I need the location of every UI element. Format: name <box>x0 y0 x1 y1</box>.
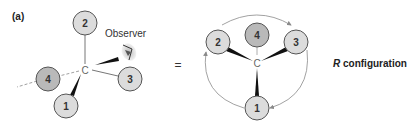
equals-sign: = <box>174 58 181 72</box>
observer-label: Observer <box>105 28 147 39</box>
svg-text:3: 3 <box>127 74 133 85</box>
left-substituent-2: 2 <box>73 11 97 35</box>
left-substituent-1: 1 <box>54 94 78 118</box>
left-center-carbon: C <box>81 65 88 76</box>
svg-text:1: 1 <box>254 103 260 114</box>
right-substituent-4: 4 <box>245 23 269 47</box>
right-substituent-2: 2 <box>206 30 230 54</box>
bond-to-3 <box>92 70 118 76</box>
right-substituent-1: 1 <box>245 96 269 120</box>
svg-text:4: 4 <box>254 30 260 41</box>
wedge-bond-to-1 <box>255 68 259 96</box>
dashed-bond-to-4 <box>59 71 79 76</box>
panel-label: (a) <box>12 11 24 22</box>
rotation-arrow-1-to-2 <box>205 52 244 108</box>
wedge-bond-to-2 <box>226 47 253 61</box>
right-substituent-3: 3 <box>284 30 308 54</box>
dashed-extension <box>17 81 37 87</box>
configuration-text: configuration <box>340 58 407 69</box>
svg-text:1: 1 <box>63 101 69 112</box>
wedge-bond-to-observer <box>95 57 119 65</box>
svg-text:2: 2 <box>215 37 221 48</box>
left-substituent-4: 4 <box>36 67 60 91</box>
stereochemistry-diagram: (a) C 2 4 1 3 <box>0 0 419 123</box>
svg-text:4: 4 <box>45 74 51 85</box>
right-center-carbon: C <box>253 58 260 69</box>
rotation-arrow-3-to-1 <box>270 50 308 108</box>
wedge-bond-to-1 <box>70 74 81 96</box>
eye-icon <box>119 41 139 63</box>
right-molecule: C 4 2 3 1 <box>205 15 308 120</box>
svg-text:3: 3 <box>293 37 299 48</box>
configuration-label: R configuration <box>333 58 407 69</box>
left-substituent-3: 3 <box>118 67 142 91</box>
wedge-bond-to-3 <box>261 47 288 61</box>
svg-text:2: 2 <box>82 18 88 29</box>
